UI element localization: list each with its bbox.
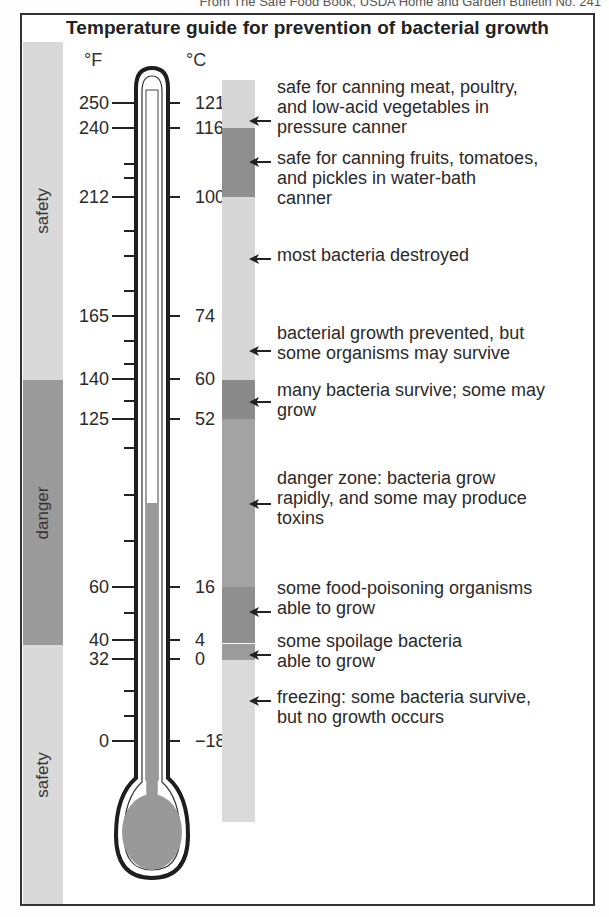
celsius-tick-label: 16 <box>195 578 215 596</box>
annotation-line: bacterial growth prevented, but <box>277 323 524 343</box>
minor-tick <box>124 163 136 165</box>
arrow-icon <box>249 342 271 352</box>
minor-tick <box>124 230 136 232</box>
annotation-line: pressure canner <box>277 117 518 137</box>
celsius-tick-label: 116 <box>195 119 224 137</box>
celsius-tick <box>168 418 180 420</box>
arrow-icon <box>249 603 271 613</box>
annotation-line: able to grow <box>277 651 462 671</box>
celsius-tick <box>168 315 180 317</box>
annotation-text: danger zone: bacteria growrapidly, and s… <box>277 468 527 528</box>
minor-tick <box>124 290 136 292</box>
celsius-tick <box>168 639 180 641</box>
celsius-tick-label: 4 <box>195 631 205 649</box>
fahrenheit-tick <box>112 196 136 198</box>
celsius-tick <box>168 196 180 198</box>
zone-label-danger: danger <box>23 380 63 645</box>
fahrenheit-tick <box>112 315 136 317</box>
annotation-line: freezing: some bacteria survive, <box>277 687 531 707</box>
zone-label-text: safety <box>33 188 53 233</box>
fahrenheit-tick <box>112 639 136 641</box>
annotation-text: some food-poisoning organismsable to gro… <box>277 578 532 618</box>
celsius-tick-label: 52 <box>195 410 215 428</box>
celsius-tick-label: 74 <box>195 307 215 325</box>
fahrenheit-tick-label: 165 <box>79 307 109 325</box>
annotation-line: danger zone: bacteria grow <box>277 468 527 488</box>
fahrenheit-tick <box>112 418 136 420</box>
arrow-icon <box>249 153 271 163</box>
annotation-text: most bacteria destroyed <box>277 245 469 265</box>
arrow-icon <box>249 495 271 505</box>
celsius-tick <box>168 127 180 129</box>
annotation-line: some spoilage bacteria <box>277 631 462 651</box>
fahrenheit-tick-label: 140 <box>79 370 109 388</box>
minor-tick <box>124 363 136 365</box>
annotation-line: able to grow <box>277 598 532 618</box>
minor-tick <box>124 447 136 449</box>
celsius-tick-label: 60 <box>195 370 215 388</box>
title-box: Temperature guide for prevention of bact… <box>20 13 595 42</box>
annotation-line: some organisms may survive <box>277 343 524 363</box>
celsius-tick <box>168 102 180 104</box>
fahrenheit-tick <box>112 586 136 588</box>
minor-tick <box>124 255 136 257</box>
celsius-tick-label: 0 <box>195 650 205 668</box>
annotation-line: rapidly, and some may produce <box>277 488 527 508</box>
page-title: Temperature guide for prevention of bact… <box>66 17 549 39</box>
annotation-text: freezing: some bacteria survive,but no g… <box>277 687 531 727</box>
celsius-tick-label: 100 <box>195 188 225 206</box>
range-bar-segment <box>222 660 255 822</box>
arrow-icon <box>249 112 271 122</box>
arrow-icon <box>249 393 271 403</box>
minor-tick <box>124 540 136 542</box>
minor-tick <box>124 494 136 496</box>
zone-label-text: safety <box>33 752 53 797</box>
annotation-line: canner <box>277 188 538 208</box>
annotation-line: safe for canning fruits, tomatoes, <box>277 148 538 168</box>
annotation-line: and low-acid vegetables in <box>277 97 518 117</box>
annotation-text: many bacteria survive; some maygrow <box>277 380 545 420</box>
zone-label-safety: safety <box>23 645 63 904</box>
source-line: From The Safe Food Book, USDA Home and G… <box>0 0 609 9</box>
annotation-line: toxins <box>277 508 527 528</box>
fahrenheit-tick <box>112 740 136 742</box>
annotation-line: safe for canning meat, poultry, <box>277 77 518 97</box>
annotation-line: and pickles in water-bath <box>277 168 538 188</box>
annotation-line: but no growth occurs <box>277 707 531 727</box>
arrow-icon <box>249 692 271 702</box>
annotation-line: grow <box>277 400 545 420</box>
minor-tick <box>124 340 136 342</box>
zone-label-safety: safety <box>23 42 63 380</box>
minor-tick <box>124 690 136 692</box>
fahrenheit-tick-label: 60 <box>89 578 109 596</box>
fahrenheit-tick-label: 250 <box>79 94 109 112</box>
annotation-line: many bacteria survive; some may <box>277 380 545 400</box>
thermometer-icon <box>100 60 210 900</box>
celsius-tick <box>168 658 180 660</box>
zone-label-text: danger <box>33 486 53 539</box>
fahrenheit-tick <box>112 102 136 104</box>
fahrenheit-tick-label: 212 <box>79 188 109 206</box>
arrow-icon <box>249 250 271 260</box>
celsius-tick <box>168 586 180 588</box>
celsius-tick <box>168 378 180 380</box>
minor-tick <box>124 177 136 179</box>
annotation-line: some food-poisoning organisms <box>277 578 532 598</box>
fahrenheit-tick-label: 0 <box>99 732 109 750</box>
fahrenheit-tick <box>112 658 136 660</box>
annotation-line: most bacteria destroyed <box>277 245 469 265</box>
arrow-icon <box>249 646 271 656</box>
celsius-tick <box>168 740 180 742</box>
annotation-text: some spoilage bacteriaable to grow <box>277 631 462 671</box>
annotation-text: safe for canning meat, poultry,and low-a… <box>277 77 518 137</box>
fahrenheit-tick <box>112 127 136 129</box>
fahrenheit-tick-label: 40 <box>89 631 109 649</box>
fahrenheit-tick <box>112 378 136 380</box>
celsius-tick-label: 121 <box>195 94 225 112</box>
celsius-tick-label: −18 <box>195 732 226 750</box>
fahrenheit-tick-label: 125 <box>79 410 109 428</box>
minor-tick <box>124 400 136 402</box>
minor-tick <box>124 612 136 614</box>
annotation-text: bacterial growth prevented, butsome orga… <box>277 323 524 363</box>
fahrenheit-tick-label: 240 <box>79 119 109 137</box>
